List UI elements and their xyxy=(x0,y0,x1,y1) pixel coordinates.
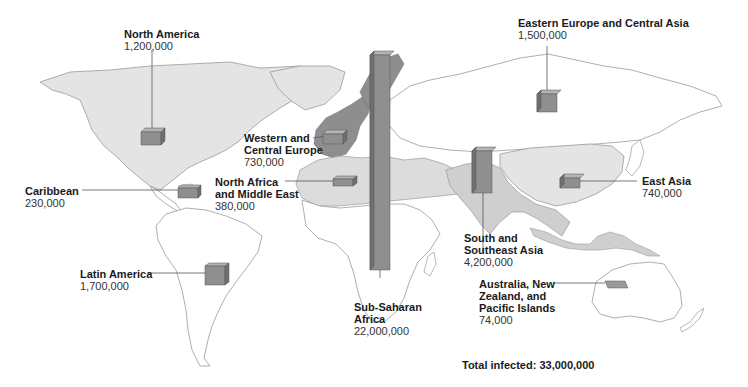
region-name-line3: Pacific Islands xyxy=(479,302,555,314)
region-value: 4,200,000 xyxy=(464,256,543,268)
bar-western-europe xyxy=(323,130,347,144)
region-name-line2: Central Europe xyxy=(244,144,323,156)
bar-latin-america xyxy=(205,263,229,285)
region-name-line2: Africa xyxy=(354,313,422,325)
region-name-line2: Zealand, and xyxy=(479,290,555,302)
label-north-africa: North Africa and Middle East 380,000 xyxy=(215,176,299,212)
region-value: 22,000,000 xyxy=(354,325,422,337)
new-zealand-landmass xyxy=(680,308,704,332)
region-value: 740,000 xyxy=(642,187,691,199)
region-value: 1,500,000 xyxy=(518,29,689,41)
region-name: Latin America xyxy=(80,268,152,280)
region-name: Eastern Europe and Central Asia xyxy=(518,17,689,29)
australia-landmass xyxy=(592,262,682,322)
label-caribbean: Caribbean 230,000 xyxy=(25,185,79,209)
total-infected-label: Total infected: 33,000,000 xyxy=(462,359,594,371)
label-eastern-europe: Eastern Europe and Central Asia 1,500,00… xyxy=(518,17,689,41)
region-value: 730,000 xyxy=(244,156,323,168)
label-east-asia: East Asia 740,000 xyxy=(642,175,691,199)
south-america-landmass xyxy=(156,208,262,366)
region-name: North America xyxy=(124,28,199,40)
region-name-line2: and Middle East xyxy=(215,188,299,200)
region-value: 230,000 xyxy=(25,197,79,209)
label-western-europe: Western and Central Europe 730,000 xyxy=(244,132,323,168)
madagascar-landmass xyxy=(424,252,436,276)
hiv-world-map: North America 1,200,000 Caribbean 230,00… xyxy=(0,0,748,387)
region-value: 380,000 xyxy=(215,200,299,212)
region-name-line2: Southeast Asia xyxy=(464,244,543,256)
bar-north-africa xyxy=(333,176,357,186)
indonesia-islands xyxy=(530,228,660,256)
label-oceania: Australia, New Zealand, and Pacific Isla… xyxy=(479,278,555,326)
region-value: 1,200,000 xyxy=(124,40,199,52)
japan-landmass xyxy=(626,140,644,176)
region-name: East Asia xyxy=(642,175,691,187)
region-value: 74,000 xyxy=(479,314,555,326)
region-name-line1: North Africa xyxy=(215,176,299,188)
bar-oceania xyxy=(605,281,628,288)
region-value: 1,700,000 xyxy=(80,280,152,292)
label-sub-saharan-africa: Sub-Saharan Africa 22,000,000 xyxy=(354,301,422,337)
bar-caribbean xyxy=(178,185,201,198)
region-name-line1: South and xyxy=(464,232,543,244)
label-latin-america: Latin America 1,700,000 xyxy=(80,268,152,292)
region-name-line1: Sub-Saharan xyxy=(354,301,422,313)
bar-north-america xyxy=(141,128,165,145)
label-south-asia: South and Southeast Asia 4,200,000 xyxy=(464,232,543,268)
label-north-america: North America 1,200,000 xyxy=(124,28,199,52)
region-name-line1: Western and xyxy=(244,132,323,144)
region-name: Caribbean xyxy=(25,185,79,197)
region-name-line1: Australia, New xyxy=(479,278,555,290)
